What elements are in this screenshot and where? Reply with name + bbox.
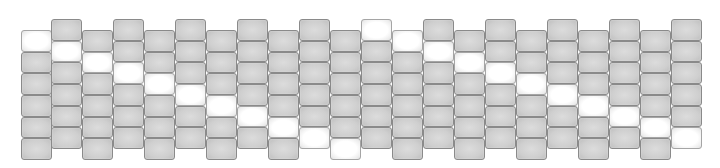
grid-cell[interactable] bbox=[51, 127, 82, 149]
grid-cell[interactable] bbox=[113, 106, 144, 128]
grid-cell[interactable] bbox=[361, 127, 392, 149]
grid-cell[interactable] bbox=[671, 84, 702, 106]
grid-cell[interactable] bbox=[578, 52, 609, 74]
grid-cell[interactable] bbox=[454, 95, 485, 117]
grid-cell[interactable] bbox=[21, 117, 52, 139]
grid-cell[interactable] bbox=[578, 117, 609, 139]
grid-cell[interactable] bbox=[206, 52, 237, 74]
grid-cell[interactable] bbox=[237, 62, 268, 84]
highlighted-cell[interactable] bbox=[82, 52, 113, 74]
grid-cell[interactable] bbox=[206, 117, 237, 139]
grid-cell[interactable] bbox=[392, 138, 423, 160]
grid-cell[interactable] bbox=[144, 52, 175, 74]
grid-cell[interactable] bbox=[175, 41, 206, 63]
grid-cell[interactable] bbox=[299, 19, 330, 41]
highlighted-cell[interactable] bbox=[21, 30, 52, 52]
grid-cell[interactable] bbox=[237, 84, 268, 106]
grid-cell[interactable] bbox=[144, 117, 175, 139]
grid-cell[interactable] bbox=[361, 84, 392, 106]
grid-cell[interactable] bbox=[21, 52, 52, 74]
highlighted-cell[interactable] bbox=[268, 117, 299, 139]
grid-cell[interactable] bbox=[640, 73, 671, 95]
grid-cell[interactable] bbox=[299, 41, 330, 63]
grid-cell[interactable] bbox=[640, 30, 671, 52]
highlighted-cell[interactable] bbox=[640, 117, 671, 139]
grid-cell[interactable] bbox=[113, 127, 144, 149]
grid-cell[interactable] bbox=[361, 106, 392, 128]
grid-cell[interactable] bbox=[454, 30, 485, 52]
grid-cell[interactable] bbox=[423, 127, 454, 149]
highlighted-cell[interactable] bbox=[206, 95, 237, 117]
grid-cell[interactable] bbox=[671, 62, 702, 84]
grid-cell[interactable] bbox=[82, 30, 113, 52]
grid-cell[interactable] bbox=[516, 30, 547, 52]
grid-cell[interactable] bbox=[485, 127, 516, 149]
grid-cell[interactable] bbox=[609, 41, 640, 63]
grid-cell[interactable] bbox=[547, 106, 578, 128]
highlighted-cell[interactable] bbox=[485, 62, 516, 84]
grid-cell[interactable] bbox=[82, 95, 113, 117]
grid-cell[interactable] bbox=[237, 127, 268, 149]
grid-cell[interactable] bbox=[609, 62, 640, 84]
grid-cell[interactable] bbox=[51, 19, 82, 41]
grid-cell[interactable] bbox=[268, 52, 299, 74]
grid-cell[interactable] bbox=[144, 95, 175, 117]
grid-cell[interactable] bbox=[671, 106, 702, 128]
grid-cell[interactable] bbox=[609, 127, 640, 149]
grid-cell[interactable] bbox=[609, 84, 640, 106]
grid-cell[interactable] bbox=[237, 41, 268, 63]
grid-cell[interactable] bbox=[51, 84, 82, 106]
highlighted-cell[interactable] bbox=[361, 19, 392, 41]
highlighted-cell[interactable] bbox=[113, 62, 144, 84]
grid-cell[interactable] bbox=[516, 138, 547, 160]
grid-cell[interactable] bbox=[268, 73, 299, 95]
grid-cell[interactable] bbox=[578, 73, 609, 95]
grid-cell[interactable] bbox=[299, 84, 330, 106]
highlighted-cell[interactable] bbox=[330, 138, 361, 160]
highlighted-cell[interactable] bbox=[671, 127, 702, 149]
grid-cell[interactable] bbox=[175, 19, 206, 41]
grid-cell[interactable] bbox=[547, 127, 578, 149]
grid-cell[interactable] bbox=[640, 95, 671, 117]
grid-cell[interactable] bbox=[671, 19, 702, 41]
grid-cell[interactable] bbox=[361, 62, 392, 84]
highlighted-cell[interactable] bbox=[175, 84, 206, 106]
grid-cell[interactable] bbox=[392, 95, 423, 117]
grid-cell[interactable] bbox=[640, 138, 671, 160]
grid-cell[interactable] bbox=[82, 73, 113, 95]
highlighted-cell[interactable] bbox=[144, 73, 175, 95]
grid-cell[interactable] bbox=[330, 73, 361, 95]
grid-cell[interactable] bbox=[330, 52, 361, 74]
highlighted-cell[interactable] bbox=[516, 73, 547, 95]
highlighted-cell[interactable] bbox=[237, 106, 268, 128]
grid-cell[interactable] bbox=[206, 30, 237, 52]
grid-cell[interactable] bbox=[423, 62, 454, 84]
highlighted-cell[interactable] bbox=[547, 84, 578, 106]
grid-cell[interactable] bbox=[640, 52, 671, 74]
grid-cell[interactable] bbox=[392, 117, 423, 139]
highlighted-cell[interactable] bbox=[51, 41, 82, 63]
grid-cell[interactable] bbox=[516, 117, 547, 139]
grid-cell[interactable] bbox=[144, 138, 175, 160]
grid-cell[interactable] bbox=[392, 73, 423, 95]
grid-cell[interactable] bbox=[206, 73, 237, 95]
grid-cell[interactable] bbox=[268, 30, 299, 52]
grid-cell[interactable] bbox=[51, 62, 82, 84]
grid-cell[interactable] bbox=[268, 95, 299, 117]
grid-cell[interactable] bbox=[175, 62, 206, 84]
grid-cell[interactable] bbox=[330, 117, 361, 139]
grid-cell[interactable] bbox=[454, 138, 485, 160]
grid-cell[interactable] bbox=[361, 41, 392, 63]
grid-cell[interactable] bbox=[454, 73, 485, 95]
highlighted-cell[interactable] bbox=[299, 127, 330, 149]
grid-cell[interactable] bbox=[175, 106, 206, 128]
grid-cell[interactable] bbox=[113, 84, 144, 106]
highlighted-cell[interactable] bbox=[578, 95, 609, 117]
grid-cell[interactable] bbox=[82, 138, 113, 160]
grid-cell[interactable] bbox=[547, 62, 578, 84]
grid-cell[interactable] bbox=[330, 95, 361, 117]
grid-cell[interactable] bbox=[113, 41, 144, 63]
grid-cell[interactable] bbox=[299, 106, 330, 128]
grid-cell[interactable] bbox=[516, 52, 547, 74]
grid-cell[interactable] bbox=[423, 19, 454, 41]
